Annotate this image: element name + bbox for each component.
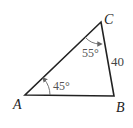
vertex-label-a: A	[12, 97, 22, 112]
angle-label-c: 55°	[82, 46, 99, 60]
angle-label-a: 45°	[53, 79, 70, 93]
vertex-label-b: B	[116, 100, 125, 115]
triangle-diagram: A B C 45° 55° 40	[0, 0, 133, 128]
side-label-bc: 40	[111, 54, 124, 69]
vertex-label-c: C	[104, 12, 114, 27]
angle-arc-a	[44, 79, 50, 95]
angle-arc-c	[85, 37, 100, 44]
